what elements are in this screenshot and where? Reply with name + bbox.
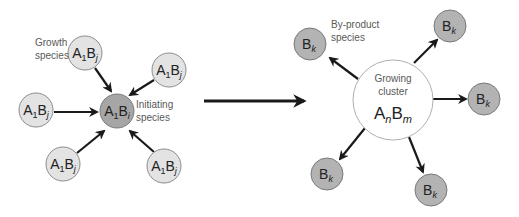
arrow-to-byproduct-top-right [414,40,437,63]
byproduct-species-label: By-productspecies [331,19,380,43]
arrow-top-right [130,80,154,95]
arrow-top [95,68,111,91]
arrow-bottom-right [130,131,154,152]
byproduct-node: Bk [311,158,343,190]
byproduct-node: Bk [434,10,466,42]
growth-species-label: Growthspecies [35,37,69,61]
byproduct-node: Bk [415,174,447,206]
growth-node: A1Bj [147,149,181,183]
growth-node: A1Bj [152,53,186,87]
growth-node: A1Bj [46,147,80,181]
growth-node: A1Bj [19,93,53,127]
byproduct-node: Bk [468,83,500,115]
arrow-bottom-left [77,131,104,153]
initiating-node: A1Bi [100,94,134,128]
arrow-to-byproduct-top-left [330,58,358,79]
arrow-to-byproduct-bottom-left [340,128,365,159]
byproduct-node: Bk [294,28,326,60]
arrow-to-byproduct-bottom [409,137,423,172]
growing-cluster-node: Growingcluster AnBm [353,60,433,140]
growth-node: A1Bj [68,36,102,70]
nucleation-diagram: A1Bj A1Bj A1Bj A1Bj A1Bj A1Bi Growthspec… [0,0,519,217]
initiating-species-label: Initiatingspecies [136,99,173,123]
